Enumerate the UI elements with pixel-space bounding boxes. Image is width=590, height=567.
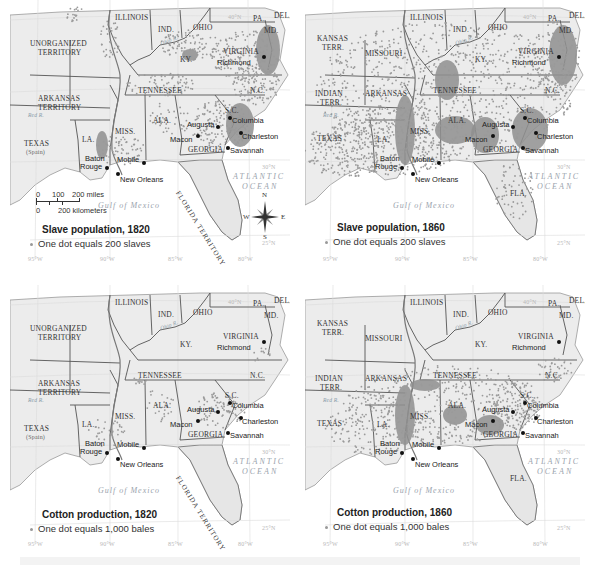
state-label-georgia: GEORGIA — [188, 431, 223, 439]
label-unorganized-territory: UNORGANIZED — [30, 40, 87, 48]
coord-lat-40: 40°N — [523, 14, 537, 20]
compass-s: S — [263, 233, 267, 241]
city-label-macon: Macon — [465, 136, 488, 144]
label-ocean: OCEAN — [537, 468, 573, 476]
legend-text: One dot equals 1,000 bales — [333, 521, 449, 532]
state-label-ala: ALA. — [448, 402, 466, 410]
state-label-nc: N.C. — [250, 87, 265, 95]
city-label-savannah: Savannah — [230, 432, 264, 440]
label-unorganized-territory: UNORGANIZED — [30, 325, 87, 333]
coord-lon-90: 90°W — [100, 256, 115, 262]
state-label-georgia: GEORGIA — [483, 431, 518, 439]
coord-lat-30: 30°N — [262, 449, 276, 455]
map-panel-slave-1860: ILLINOISIND.OHIOPA.DEL.MD.VIRGINIAKY.TEN… — [305, 0, 585, 270]
state-label-virginia: VIRGINIA — [223, 48, 259, 56]
state-label-tennessee: TENNESSEE — [138, 372, 182, 380]
city-label-augusta: Augusta — [482, 121, 510, 129]
state-label-pa: PA. — [253, 300, 264, 308]
city-label-augusta: Augusta — [187, 406, 215, 414]
city-label-macon: Macon — [170, 136, 193, 144]
city-label-columbia: Columbia — [232, 402, 264, 410]
coord-lon-90: 90°W — [395, 256, 410, 262]
label-arkansas-territory-2: TERRITORY — [38, 104, 81, 112]
state-label-ohio: OHIO — [488, 24, 508, 32]
city-marker-macon — [196, 134, 200, 138]
coord-lat-25: 25°N — [557, 240, 571, 246]
city-marker-baton-rouge — [105, 166, 109, 170]
legend-dot-icon — [325, 526, 328, 529]
legend-dot-icon — [30, 243, 33, 246]
city-label-savannah: Savannah — [525, 432, 559, 440]
city-label-richmond: Richmond — [512, 59, 546, 67]
city-label-mobile: Mobile — [412, 441, 434, 449]
label-arkansas-territory: ARKANSAS — [38, 95, 80, 103]
city-label-richmond: Richmond — [217, 344, 251, 352]
coord-lon-90: 90°W — [395, 541, 410, 547]
state-label-pa: PA. — [253, 15, 264, 23]
label-atlantic: ATLANTIC — [528, 173, 580, 181]
state-label-ohio: OHIO — [193, 309, 213, 317]
city-label-augusta: Augusta — [482, 406, 510, 414]
coord-lon-85: 85°W — [168, 256, 183, 262]
state-label-virginia: VIRGINIA — [518, 333, 554, 341]
state-label-nc: N.C. — [545, 372, 560, 380]
city-label-richmond: Richmond — [512, 344, 546, 352]
state-label-sc: S.C. — [520, 107, 534, 115]
label-red-river: Red R. — [323, 398, 339, 404]
label-texas-spain: (Spain) — [26, 149, 45, 155]
city-label-charleston: Charleston — [242, 133, 278, 141]
scale-bar: 0 100 200 miles 0 200 kilometers — [24, 190, 124, 220]
city-label-charleston: Charleston — [537, 133, 573, 141]
state-label-del: DEL. — [569, 297, 585, 305]
city-marker-augusta — [216, 410, 220, 414]
city-label-columbia: Columbia — [527, 402, 559, 410]
label-kansas-terr-2: TERR. — [322, 44, 344, 52]
coord-lat-30: 30°N — [262, 164, 276, 170]
coord-lon-80: 80°W — [238, 541, 253, 547]
state-label-ohio: OHIO — [488, 309, 508, 317]
label-indian-terr: INDIAN — [315, 90, 343, 98]
city-label-new-orleans: New Orleans — [415, 176, 458, 184]
city-marker-mobile — [437, 446, 441, 450]
state-label-nc: N.C. — [250, 372, 265, 380]
coord-lat-25: 25°N — [557, 525, 571, 531]
label-unorganized-territory-2: TERRITORY — [38, 49, 81, 57]
scale-miles-200: 200 miles — [72, 190, 104, 199]
state-label-la: LA. — [377, 136, 389, 144]
coord-lat-25: 25°N — [262, 525, 276, 531]
city-marker-richmond — [262, 55, 266, 59]
label-arkansas: ARKANSAS — [365, 375, 407, 383]
city-marker-augusta — [511, 410, 515, 414]
city-label-macon: Macon — [465, 421, 488, 429]
state-label-la: LA. — [377, 421, 389, 429]
label-red-river: Red R. — [28, 113, 44, 119]
state-label-illinois: ILLINOIS — [115, 299, 148, 307]
city-label-baton-rouge-2: Rouge — [80, 163, 102, 171]
city-label-new-orleans: New Orleans — [415, 461, 458, 469]
city-marker-baton-rouge — [400, 451, 404, 455]
map-title: Slave population, 1820 — [42, 224, 150, 235]
state-label-ky: KY. — [180, 341, 192, 349]
state-label-miss: MISS. — [410, 413, 430, 421]
map-panel-slave-1820: ILLINOISIND.OHIOPA.DEL.MD.VIRGINIAKY.TEN… — [10, 0, 290, 270]
label-texas: TEXAS — [24, 140, 49, 148]
state-label-sc: S.C. — [520, 392, 534, 400]
city-label-new-orleans: New Orleans — [120, 176, 163, 184]
label-red-river: Red R. — [28, 398, 44, 404]
label-atlantic: ATLANTIC — [528, 458, 580, 466]
label-indian-terr-2: TERR. — [320, 384, 342, 392]
map-legend: One dot equals 1,000 bales — [325, 521, 449, 532]
state-label-md: MD. — [264, 312, 279, 320]
coord-lon-90: 90°W — [100, 541, 115, 547]
state-label-illinois: ILLINOIS — [410, 299, 443, 307]
label-kansas-terr: KANSAS — [317, 35, 348, 43]
coord-lon-85: 85°W — [463, 256, 478, 262]
label-arkansas-territory: ARKANSAS — [38, 380, 80, 388]
label-florida: FLA. — [510, 475, 527, 483]
state-label-virginia: VIRGINIA — [223, 333, 259, 341]
state-label-miss: MISS. — [410, 128, 430, 136]
state-label-md: MD. — [559, 312, 574, 320]
coord-lat-40: 40°N — [523, 299, 537, 305]
coord-lon-80: 80°W — [533, 541, 548, 547]
state-label-pa: PA. — [548, 300, 559, 308]
